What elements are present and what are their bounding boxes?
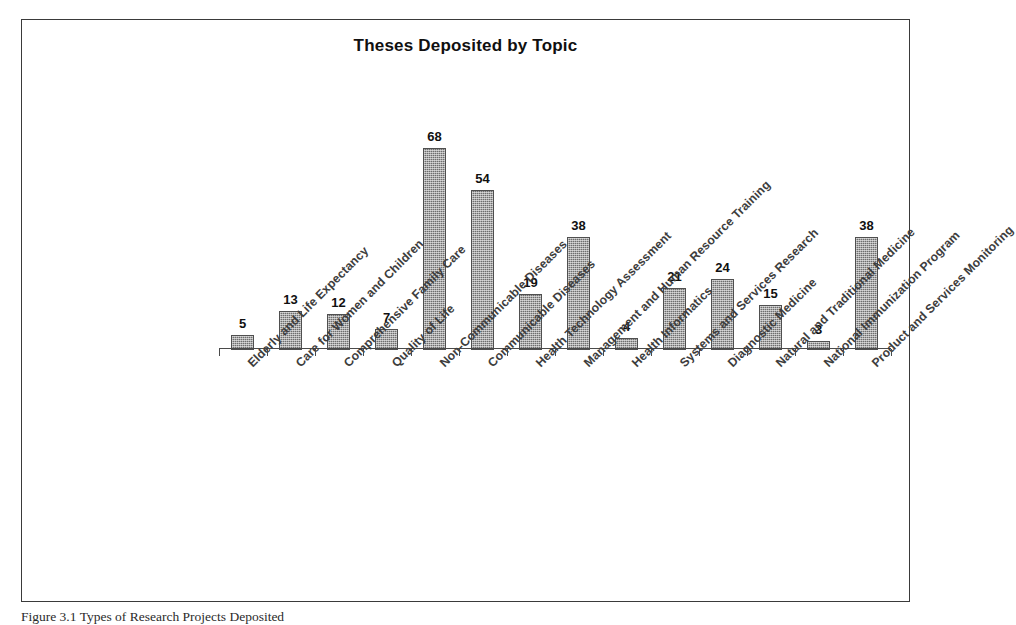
x-axis-tick xyxy=(843,349,844,356)
figure-caption: Figure 3.1 Types of Research Projects De… xyxy=(21,609,581,625)
bar-value-label: 5 xyxy=(219,316,266,331)
bar-value-label: 38 xyxy=(843,218,890,233)
x-axis-tick xyxy=(363,349,364,356)
bar-value-label: 38 xyxy=(555,218,602,233)
x-axis-tick xyxy=(651,349,652,356)
x-axis-tick xyxy=(603,349,604,356)
bar-value-label: 54 xyxy=(459,171,506,186)
x-axis-tick xyxy=(747,349,748,356)
x-axis-tick xyxy=(507,349,508,356)
bar-slot: 5 xyxy=(219,80,266,350)
chart-title: Theses Deposited by Topic xyxy=(22,36,909,56)
x-axis-tick xyxy=(459,349,460,356)
figure-frame: Theses Deposited by Topic 51312768541938… xyxy=(21,19,910,602)
bar-value-label: 24 xyxy=(699,260,746,275)
x-axis-tick xyxy=(411,349,412,356)
x-axis-tick xyxy=(267,349,268,356)
x-axis-tick xyxy=(315,349,316,356)
x-axis-tick xyxy=(555,349,556,356)
x-axis-tick xyxy=(891,349,892,356)
bar-value-label: 68 xyxy=(411,129,458,144)
x-axis-tick xyxy=(699,349,700,356)
x-axis-tick xyxy=(795,349,796,356)
x-axis-tick xyxy=(219,349,220,356)
